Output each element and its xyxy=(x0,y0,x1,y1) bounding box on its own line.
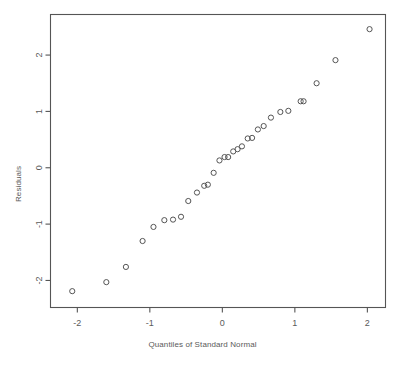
y-tick-label: 0 xyxy=(35,165,45,170)
data-points xyxy=(70,27,373,294)
qq-plot-figure: -2-1012 -2-1012 Quantiles of Standard No… xyxy=(0,0,405,368)
x-tick-label: 0 xyxy=(220,318,225,328)
x-tick-label: 2 xyxy=(365,318,370,328)
data-point xyxy=(194,190,199,195)
data-point xyxy=(226,154,231,159)
data-point xyxy=(162,218,167,223)
x-tick-label: 1 xyxy=(292,318,297,328)
data-point xyxy=(286,108,291,113)
y-tick-label: -2 xyxy=(35,276,45,284)
chart-canvas: -2-1012 -2-1012 xyxy=(0,0,405,368)
data-point xyxy=(239,144,244,149)
data-point xyxy=(261,123,266,128)
y-tick-label: 1 xyxy=(35,109,45,114)
data-point xyxy=(268,115,273,120)
x-axis-ticks: -2-1012 xyxy=(73,308,370,328)
y-axis-title: Residuals xyxy=(14,134,26,234)
data-point xyxy=(70,289,75,294)
plot-frame xyxy=(51,15,386,308)
data-point xyxy=(217,158,222,163)
x-tick-label: -2 xyxy=(73,318,81,328)
y-tick-label: 2 xyxy=(35,53,45,58)
data-point xyxy=(255,127,260,132)
data-point xyxy=(278,109,283,114)
data-point xyxy=(186,198,191,203)
data-point xyxy=(140,238,145,243)
data-point xyxy=(170,217,175,222)
x-axis-title: Quantiles of Standard Normal xyxy=(0,340,405,349)
data-point xyxy=(211,170,216,175)
x-tick-label: -1 xyxy=(146,318,154,328)
y-axis-ticks: -2-1012 xyxy=(35,53,51,285)
data-point xyxy=(151,224,156,229)
data-point xyxy=(314,81,319,86)
data-point xyxy=(178,214,183,219)
y-tick-label: -1 xyxy=(35,220,45,228)
data-point xyxy=(367,27,372,32)
data-point xyxy=(123,264,128,269)
data-point xyxy=(104,280,109,285)
data-point xyxy=(333,58,338,63)
